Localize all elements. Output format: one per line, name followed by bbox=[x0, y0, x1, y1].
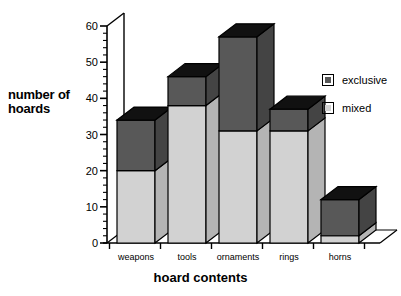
y-tick-label: 60 bbox=[72, 21, 98, 31]
y-tick-label: 10 bbox=[72, 202, 98, 212]
legend-label-mixed: mixed bbox=[342, 102, 371, 114]
y-tick-label: 20 bbox=[72, 166, 98, 176]
legend-item-mixed: mixed bbox=[322, 102, 387, 114]
y-tick-label: 40 bbox=[72, 93, 98, 103]
y-tick-label: 30 bbox=[72, 130, 98, 140]
y-tick-label: 0 bbox=[72, 238, 98, 248]
legend-label-exclusive: exclusive bbox=[342, 74, 387, 86]
legend-swatch-mixed bbox=[322, 102, 334, 114]
bar-chart: number of hoards hoard contents 01020304… bbox=[0, 0, 401, 296]
x-tick-label: horns bbox=[305, 252, 375, 262]
tick-label-layer: 0102030405060weaponstoolsornamentsringsh… bbox=[0, 0, 401, 296]
legend-item-exclusive: exclusive bbox=[322, 74, 387, 86]
y-tick-label: 50 bbox=[72, 57, 98, 67]
legend-swatch-exclusive bbox=[322, 74, 334, 86]
legend: exclusive mixed bbox=[322, 74, 387, 130]
